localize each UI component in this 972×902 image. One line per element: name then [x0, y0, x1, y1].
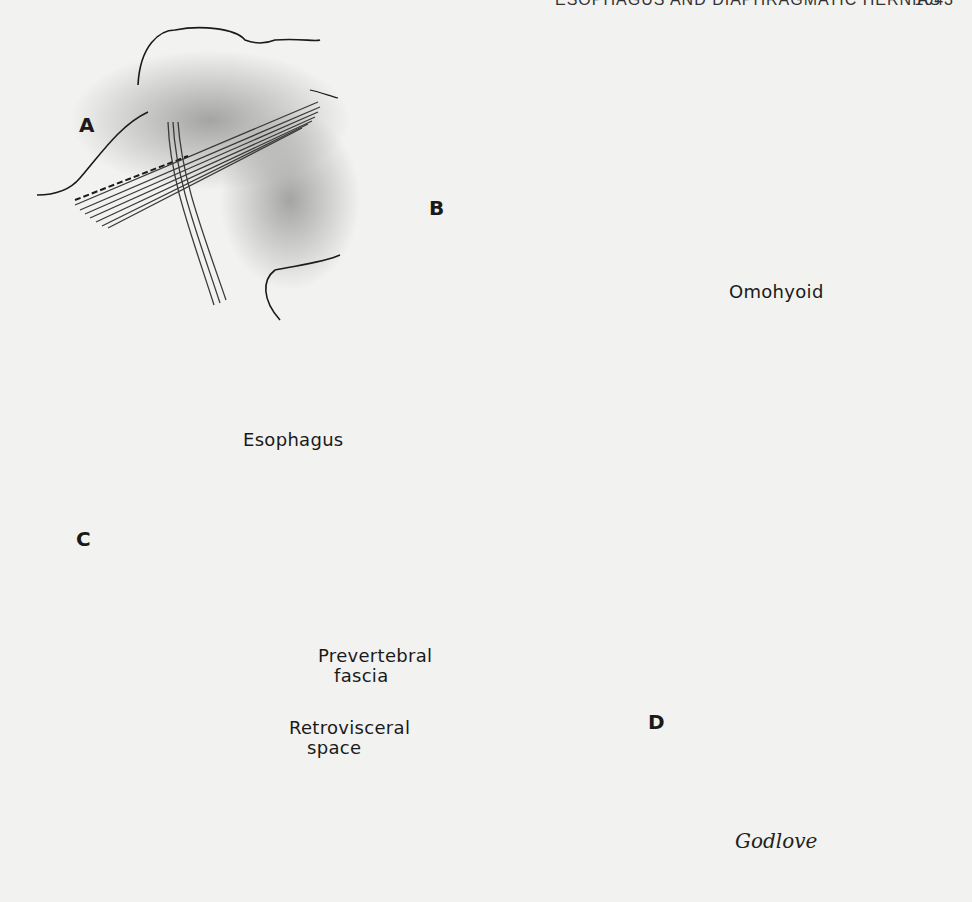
surgical-illustration — [0, 0, 972, 902]
panel-label-c: C — [76, 527, 91, 551]
panel-a-drawing — [37, 28, 360, 320]
callout-prevertebral-line1: Prevertebral — [318, 646, 432, 666]
callout-retrovisceral-space: Retrovisceral space — [289, 718, 410, 758]
panel-label-a: A — [79, 113, 94, 137]
callout-retrovisceral-line2: space — [289, 738, 410, 758]
panel-label-b: B — [429, 196, 444, 220]
callout-prevertebral-fascia: Prevertebral fascia — [318, 646, 432, 686]
callout-omohyoid: Omohyoid — [729, 282, 824, 302]
callout-retrovisceral-line1: Retrovisceral — [289, 718, 410, 738]
callout-esophagus: Esophagus — [243, 430, 344, 450]
textbook-page: ESOPHAGUS AND DIAPHRAGMATIC HERNIAS 1043 — [0, 0, 972, 902]
panel-label-d: D — [648, 710, 665, 734]
artist-signature: Godlove — [735, 829, 817, 853]
callout-prevertebral-line2: fascia — [318, 666, 432, 686]
